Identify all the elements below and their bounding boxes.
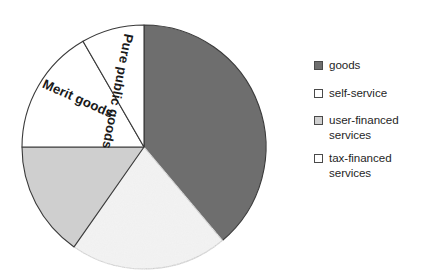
legend-item-tax-financed-services[interactable]: tax-financed services	[314, 151, 430, 180]
legend-swatch-goods-icon	[314, 61, 323, 70]
legend-swatch-tax-financed-services-icon	[314, 154, 323, 163]
legend-label-goods-line1: goods	[329, 58, 360, 71]
legend-label-user-financed-line2: services	[329, 128, 399, 143]
legend-label-user-financed-line1: user-financed	[329, 113, 399, 126]
legend-label-user-financed-services: user-financed services	[329, 113, 399, 142]
legend-item-user-financed-services[interactable]: user-financed services	[314, 113, 430, 142]
legend-swatch-self-service-icon	[314, 89, 323, 98]
chart-legend: goods self-service user-financed service…	[314, 58, 430, 189]
legend-label-goods: goods	[329, 58, 360, 73]
pie-chart-svg: Pure public goods Merit goods	[0, 0, 290, 276]
legend-label-tax-financed-line1: tax-financed	[329, 151, 392, 164]
legend-swatch-user-financed-services-icon	[314, 116, 323, 125]
legend-label-self-service: self-service	[329, 86, 387, 101]
legend-label-self-service-line1: self-service	[329, 86, 387, 99]
legend-label-tax-financed-line2: services	[329, 166, 392, 181]
pie-chart-plot-area: Pure public goods Merit goods	[0, 0, 290, 276]
legend-label-tax-financed-services: tax-financed services	[329, 151, 392, 180]
legend-item-self-service[interactable]: self-service	[314, 86, 430, 101]
pie-chart-figure: Pure public goods Merit goods goods self…	[0, 0, 430, 276]
pie-slice-group	[22, 25, 266, 269]
legend-item-goods[interactable]: goods	[314, 58, 430, 73]
